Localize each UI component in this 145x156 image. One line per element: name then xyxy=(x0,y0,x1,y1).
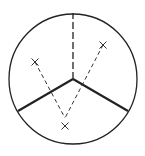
circle-diagram xyxy=(0,0,145,156)
